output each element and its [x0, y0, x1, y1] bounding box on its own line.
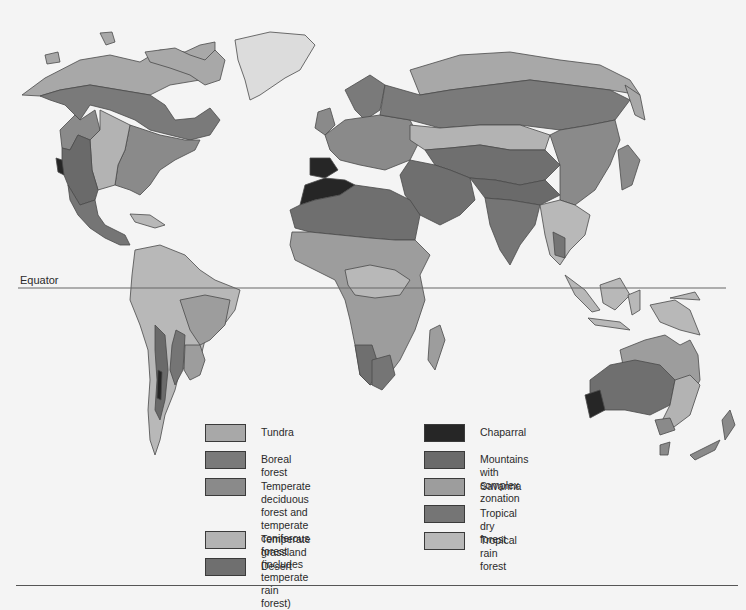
legend-item-savanna: Savanna: [424, 478, 521, 496]
madagascar: [428, 325, 445, 370]
borneo: [600, 278, 630, 310]
swatch-tundra: [205, 424, 246, 442]
andes-chaparral: [157, 370, 162, 400]
legend-label: Desert: [261, 560, 292, 573]
east-asia-forest: [550, 120, 620, 205]
legend-item-tropical-rain-forest: Tropical rain forest: [424, 532, 517, 573]
greenland: [235, 32, 315, 100]
swatch-tropical-rain-forest: [424, 532, 465, 550]
swatch-savanna: [424, 478, 465, 496]
sulawesi: [628, 290, 640, 315]
legend-item-chaparral: Chaparral: [424, 424, 526, 442]
swatch-desert: [205, 558, 246, 576]
legend-item-tundra: Tundra: [205, 424, 294, 442]
legend-label: Tropical rain forest: [480, 534, 517, 573]
swatch-tropical-dry-forest: [424, 505, 465, 523]
india-dry-forest: [485, 198, 540, 265]
legend-label: Tundra: [261, 426, 294, 439]
swatch-mountains: [424, 451, 465, 469]
legend-item-temperate-grassland: Temperate grassland: [205, 531, 311, 559]
bottom-divider: [16, 585, 738, 586]
sumatra: [565, 275, 600, 312]
legend-label: Boreal forest: [261, 453, 291, 479]
legend-item-desert: Desert: [205, 558, 292, 576]
legend-label: Temperate grassland: [261, 533, 311, 559]
new-guinea: [650, 300, 700, 335]
swatch-boreal-forest: [205, 451, 246, 469]
south-america-grassland: [184, 345, 205, 380]
legend-item-boreal-forest: Boreal forest: [205, 451, 291, 479]
equator-label: Equator: [20, 274, 59, 286]
scandinavia: [345, 75, 385, 120]
legend-label: Chaparral: [480, 426, 526, 439]
legend-label: Savanna: [480, 480, 521, 493]
swatch-temperate-grassland: [205, 531, 246, 549]
java: [588, 318, 630, 330]
legend: Tundra Boreal forest Temperate deciduous…: [205, 424, 745, 564]
south-africa-grassland: [372, 355, 395, 390]
europe-forest: [325, 115, 420, 170]
iberia-chaparral: [310, 158, 338, 178]
japan: [618, 145, 640, 190]
swatch-chaparral: [424, 424, 465, 442]
swatch-temperate-forest: [205, 478, 246, 496]
